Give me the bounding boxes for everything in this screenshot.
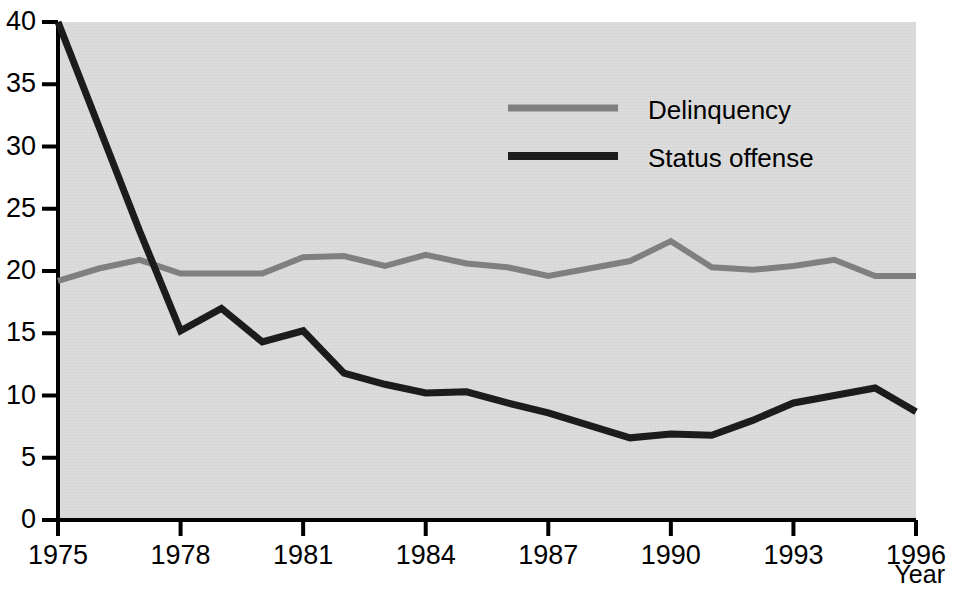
chart-root: 0510152025303540 19751978198119841987199… [0, 0, 963, 603]
y-tick-label: 35 [0, 70, 36, 97]
x-tick-label: 1990 [611, 542, 731, 569]
y-tick-label: 25 [0, 195, 36, 222]
x-tick-label: 1981 [243, 542, 363, 569]
y-axis-ticks [42, 22, 58, 520]
y-tick-label: 0 [0, 506, 36, 533]
line-chart-canvas [0, 0, 963, 603]
x-tick-label: 1993 [733, 542, 853, 569]
y-tick-label: 40 [0, 8, 36, 35]
y-tick-label: 30 [0, 133, 36, 160]
x-axis-title: Year [894, 560, 945, 589]
y-tick-label: 15 [0, 319, 36, 346]
y-tick-label: 10 [0, 382, 36, 409]
legend-item-delinquency: Delinquency [648, 95, 791, 126]
x-axis-ticks [58, 520, 916, 536]
x-tick-label: 1987 [488, 542, 608, 569]
y-tick-label: 20 [0, 257, 36, 284]
x-tick-label: 1984 [366, 542, 486, 569]
x-tick-label: 1978 [121, 542, 241, 569]
y-tick-label: 5 [0, 444, 36, 471]
x-tick-label: 1975 [0, 542, 118, 569]
legend-item-status-offense: Status offense [648, 143, 814, 174]
